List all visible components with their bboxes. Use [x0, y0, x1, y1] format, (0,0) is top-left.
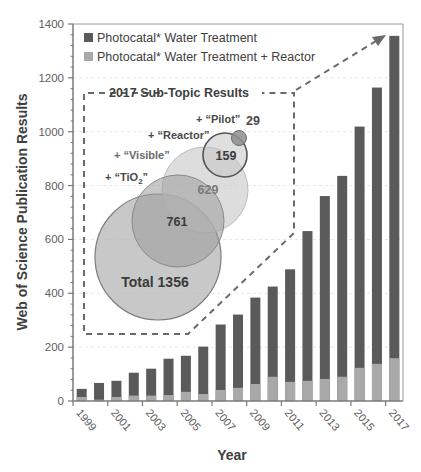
y-tick-label: 800 [45, 180, 64, 192]
x-axis-title: Year [217, 447, 247, 463]
bar-total-2017 [389, 36, 399, 401]
arrow-head-icon [372, 35, 386, 46]
bar-reactor-2006 [198, 394, 208, 401]
reactor-label: + “Reactor” [148, 129, 209, 141]
visible-value: 629 [198, 183, 219, 197]
bar-reactor-2009 [250, 384, 260, 401]
bar-reactor-2016 [372, 364, 382, 401]
tio2-label: + “TiO2” [105, 171, 148, 186]
bar-total-2012 [302, 231, 312, 401]
x-axis-ticks: 1999200120032005200720092011201320152017 [73, 401, 412, 433]
bar-reactor-2017 [389, 358, 399, 401]
x-tick-label: 2015 [352, 407, 377, 433]
reactor-value: 159 [216, 149, 237, 163]
legend-swatch-light [84, 52, 93, 61]
legend-swatch-dark [84, 33, 93, 42]
y-tick-label: 0 [58, 395, 64, 407]
visible-label: + “Visible” [114, 149, 170, 161]
inset-title: 2017 Sub-Topic Results [109, 86, 249, 100]
bar-reactor-2008 [233, 388, 243, 401]
y-tick-label: 1200 [38, 72, 64, 84]
x-tick-label: 2005 [178, 407, 203, 433]
bar-reactor-2003 [146, 396, 156, 401]
bar-total-2004 [164, 359, 174, 401]
x-tick-label: 2013 [317, 407, 342, 433]
x-tick-label: 2007 [213, 407, 238, 433]
bar-total-2006 [198, 347, 208, 401]
pilot-label: + “Pilot” [196, 113, 240, 125]
bar-total-2014 [337, 176, 347, 401]
y-axis-ticks: 0200400600800100012001400 [38, 18, 73, 407]
total-value: Total 1356 [121, 274, 189, 290]
y-tick-label: 1000 [38, 126, 64, 138]
x-tick-label: 2001 [109, 407, 134, 433]
x-tick-label: 2009 [248, 407, 273, 433]
bar-total-2007 [216, 325, 226, 401]
bar-reactor-2004 [164, 395, 174, 401]
x-tick-label: 1999 [74, 407, 99, 433]
x-tick-label: 2017 [387, 407, 412, 433]
x-tick-label: 2003 [144, 407, 169, 433]
bar-total-2011 [285, 269, 295, 401]
y-tick-label: 600 [45, 233, 64, 245]
legend-label-dark: Photocatal* Water Treatment [97, 31, 258, 45]
bar-reactor-2012 [302, 381, 312, 401]
bar-total-2015 [355, 127, 365, 401]
bar-total-2016 [372, 88, 382, 401]
bar-reactor-2013 [320, 379, 330, 401]
bar-reactor-2005 [181, 392, 191, 401]
y-tick-label: 200 [45, 341, 64, 353]
publication-results-chart: 0200400600800100012001400 19992001200320… [0, 0, 421, 472]
bar-total-2013 [320, 196, 330, 401]
y-tick-label: 1400 [38, 18, 64, 30]
y-axis-title: Web of Science Publication Results [14, 93, 30, 330]
bar-reactor-2014 [337, 377, 347, 401]
bubble-pilot [232, 131, 247, 146]
bar-reactor-2007 [216, 390, 226, 401]
legend: Photocatal* Water Treatment Photocatal* … [84, 31, 315, 64]
y-tick-label: 400 [45, 287, 64, 299]
tio2-value: 761 [167, 215, 188, 229]
x-tick-label: 2011 [283, 407, 307, 433]
bar-total-2000 [94, 383, 104, 401]
bar-reactor-2015 [355, 368, 365, 401]
bar-reactor-2002 [129, 396, 139, 401]
bar-reactor-2010 [268, 377, 278, 401]
inset-arrow-line [296, 41, 376, 90]
legend-label-light: Photocatal* Water Treatment + Reactor [97, 50, 315, 64]
pilot-value: 29 [246, 114, 260, 128]
bar-reactor-2011 [285, 382, 295, 401]
